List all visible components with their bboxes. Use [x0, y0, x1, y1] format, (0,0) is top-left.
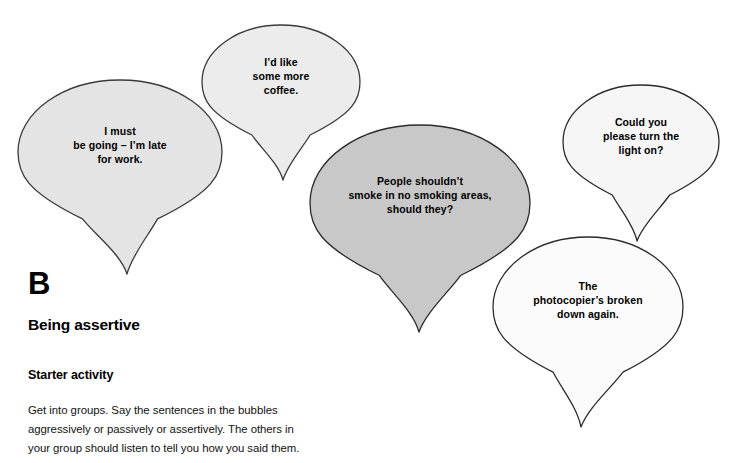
- speech-bubble-i-must-be-going-text: I must be going – I’m late for work.: [18, 124, 222, 166]
- unit-title: Being assertive: [28, 316, 358, 334]
- speech-bubble-id-like-some-more-coffee-text: I’d like some more coffee.: [202, 55, 360, 97]
- speech-bubble-i-must-be-going: [18, 80, 222, 274]
- speech-bubble-could-you-please-turn-the-light-on-text: Could you please turn the light on?: [563, 115, 719, 157]
- speech-bubble-the-photocopiers-broken-down-again: [493, 237, 683, 427]
- speech-bubble-could-you-please-turn-the-light-on-shape: [563, 85, 719, 241]
- speech-bubble-could-you-please-turn-the-light-on: [563, 85, 719, 241]
- lesson-text-block: B Being assertive Starter activity Get i…: [28, 268, 358, 458]
- instruction-line: Get into groups. Say the sentences in th…: [28, 401, 358, 420]
- speech-bubble-the-photocopiers-broken-down-again-shape: [493, 237, 683, 427]
- instruction-line: your group should listen to tell you how…: [28, 439, 358, 458]
- speech-bubble-people-shouldnt-smoke-text: People shouldn’t smoke in no smoking are…: [310, 174, 530, 216]
- speech-bubble-i-must-be-going-shape: [18, 80, 222, 274]
- section-heading-starter-activity: Starter activity: [28, 368, 358, 383]
- speech-bubble-the-photocopiers-broken-down-again-text: The photocopier’s broken down again.: [493, 279, 683, 321]
- worksheet-page: I must be going – I’m late for work.I’d …: [0, 0, 745, 463]
- instruction-paragraph: Get into groups. Say the sentences in th…: [28, 401, 358, 458]
- instruction-line: aggressively or passively or assertively…: [28, 420, 358, 439]
- unit-letter: B: [28, 268, 358, 300]
